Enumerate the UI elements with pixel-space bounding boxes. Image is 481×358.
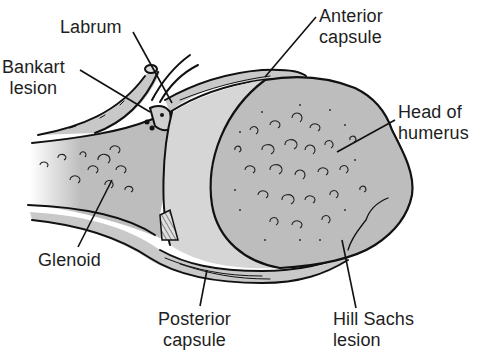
label-anterior-capsule: Anterior capsule xyxy=(319,6,383,48)
humeral-head xyxy=(211,77,413,268)
shoulder-joint-illustration xyxy=(0,0,481,358)
label-glenoid: Glenoid xyxy=(38,250,101,271)
label-bankart-lesion: Bankart lesion xyxy=(2,57,65,99)
label-posterior-capsule: Posterior capsule xyxy=(158,309,231,351)
label-labrum: Labrum xyxy=(60,17,122,38)
label-hill-sachs-lesion: Hill Sachs lesion xyxy=(333,309,414,351)
anterior-capsule-leader xyxy=(265,17,316,77)
label-head-of-humerus: Head of humerus xyxy=(398,102,469,144)
